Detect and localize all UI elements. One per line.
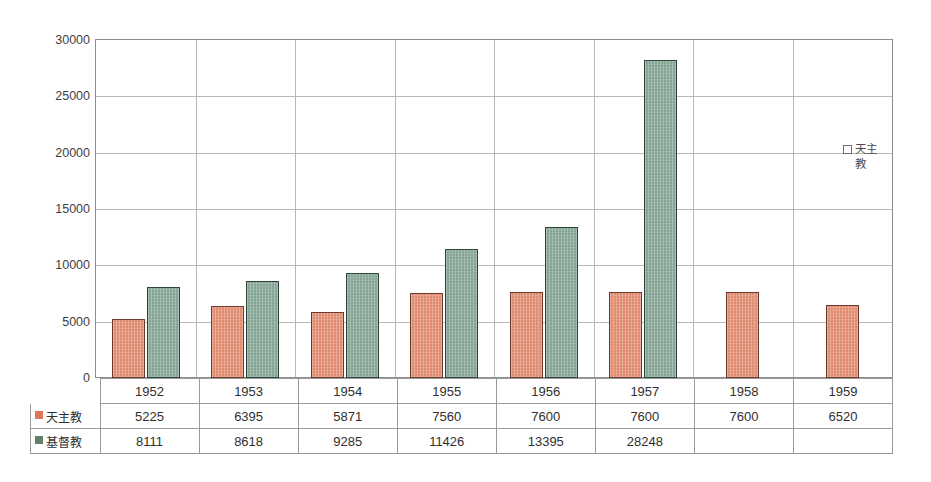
bar-group (295, 40, 395, 378)
bar-catholic-1952 (112, 319, 145, 378)
bar-catholic-1955 (410, 293, 443, 378)
y-axis-tick-label: 5000 (28, 315, 90, 329)
table-cell: 7600 (694, 404, 793, 429)
bar-protestant-1953 (246, 281, 279, 378)
table-row: 基督教811186189285114261339528248 (31, 429, 893, 454)
bar-group (693, 40, 793, 378)
table-cell (694, 429, 793, 454)
bar-protestant-1956 (545, 227, 578, 378)
table-cell: 11426 (397, 429, 496, 454)
bar-chart-with-data-table: 300002500020000150001000050000 天主教 19521… (0, 0, 931, 482)
bars-layer (96, 40, 892, 378)
bar-group (793, 40, 893, 378)
bar-catholic-1953 (211, 306, 244, 378)
y-axis: 300002500020000150001000050000 (20, 39, 90, 378)
bar-catholic-1958 (726, 292, 759, 378)
chart-legend: 天主教 (843, 142, 895, 172)
table-cell: 5225 (100, 404, 199, 429)
bar-catholic-1957 (609, 292, 642, 378)
table-cell: 8618 (199, 429, 298, 454)
series-name: 天主教 (46, 411, 82, 425)
table-column-header: 1952 (100, 379, 199, 404)
series-name: 基督教 (46, 436, 82, 450)
y-axis-tick-label: 10000 (28, 258, 90, 272)
bar-group (494, 40, 594, 378)
chart-legend-label: 天主教 (855, 142, 885, 172)
table-header-row: 19521953195419551956195719581959 (31, 379, 893, 404)
table-cell: 13395 (496, 429, 595, 454)
y-axis-tick-label: 30000 (28, 33, 90, 47)
bar-protestant-1954 (346, 273, 379, 378)
bar-catholic-1959 (826, 305, 859, 378)
table-row: 天主教52256395587175607600760076006520 (31, 404, 893, 429)
data-table: 19521953195419551956195719581959天主教52256… (30, 378, 893, 454)
table-cell: 5871 (298, 404, 397, 429)
y-axis-tick-label: 15000 (28, 202, 90, 216)
table-column-header: 1958 (694, 379, 793, 404)
table-column-header: 1957 (595, 379, 694, 404)
table-cell: 6520 (793, 404, 892, 429)
table-cell: 7600 (595, 404, 694, 429)
bar-group (196, 40, 296, 378)
table-cell: 9285 (298, 429, 397, 454)
table-cell: 28248 (595, 429, 694, 454)
table-series-label: 基督教 (31, 429, 101, 454)
table-cell: 8111 (100, 429, 199, 454)
table-column-header: 1956 (496, 379, 595, 404)
legend-swatch-icon (35, 411, 43, 419)
y-axis-tick-label: 25000 (28, 89, 90, 103)
bar-group (395, 40, 495, 378)
table-cell: 7560 (397, 404, 496, 429)
bar-catholic-1954 (311, 312, 344, 378)
table-column-header: 1954 (298, 379, 397, 404)
table-column-header: 1959 (793, 379, 892, 404)
bar-protestant-1952 (147, 287, 180, 378)
bar-group (96, 40, 196, 378)
bar-protestant-1955 (445, 249, 478, 378)
bar-catholic-1956 (510, 292, 543, 378)
table-cell: 7600 (496, 404, 595, 429)
y-axis-tick-label: 20000 (28, 146, 90, 160)
legend-swatch-icon (35, 436, 43, 444)
bar-protestant-1957 (644, 60, 677, 378)
bar-group (594, 40, 694, 378)
open-square-marker-icon (843, 145, 852, 154)
table-column-header: 1955 (397, 379, 496, 404)
table-corner-cell (31, 379, 101, 404)
table-column-header: 1953 (199, 379, 298, 404)
table-cell: 6395 (199, 404, 298, 429)
table-cell (793, 429, 892, 454)
table-series-label: 天主教 (31, 404, 101, 429)
